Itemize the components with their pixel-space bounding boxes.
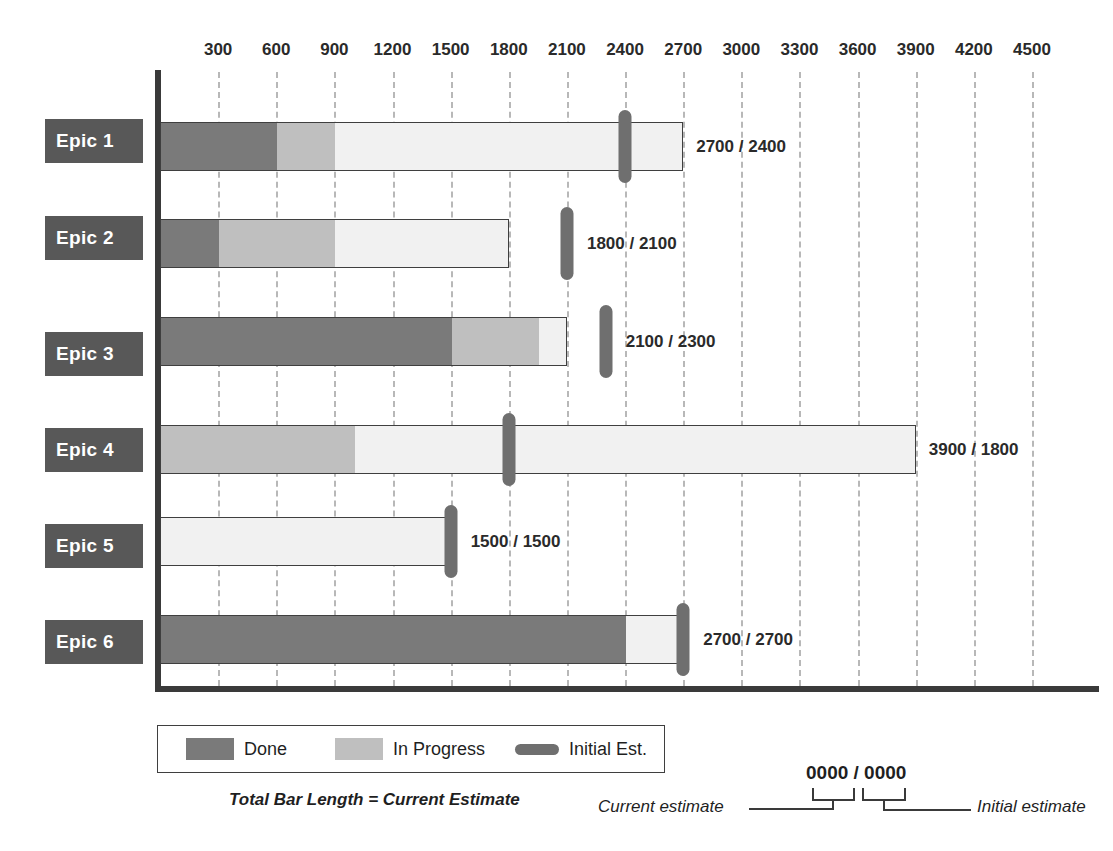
legend-swatch-done-icon — [186, 738, 234, 760]
epic-bar[interactable] — [160, 219, 509, 268]
x-tick-label: 600 — [262, 40, 290, 60]
x-tick-label: 2700 — [664, 40, 702, 60]
epic-label-chip[interactable]: Epic 2 — [45, 216, 143, 260]
legend-item-in-progress: In Progress — [335, 738, 485, 760]
epic-label-text: Epic 5 — [56, 535, 114, 557]
chart-legend: Done In Progress Initial Est. — [157, 725, 665, 773]
legend-swatch-in-progress-icon — [335, 738, 383, 760]
x-tick-label: 1800 — [490, 40, 528, 60]
bracket-initial-right — [904, 788, 906, 801]
bar-segment-done — [161, 616, 626, 663]
caption-initial-estimate: Initial estimate — [977, 797, 1086, 817]
epic-value-label: 2100 / 2300 — [626, 332, 716, 352]
bar-segment-done — [161, 123, 277, 170]
x-tick-label: 2100 — [548, 40, 586, 60]
epic-label-chip[interactable]: Epic 1 — [45, 119, 143, 163]
epic-bar[interactable] — [160, 517, 451, 566]
epic-bar[interactable] — [160, 122, 683, 171]
bracket-current-right — [853, 788, 855, 801]
epic-burnup-chart: 3006009001200150018002100240027003000330… — [0, 0, 1113, 851]
gridline — [741, 72, 743, 686]
sample-value-label: 0000 / 0000 — [806, 762, 906, 784]
initial-estimate-marker[interactable] — [560, 207, 573, 280]
legend-item-initial-est: Initial Est. — [515, 739, 647, 760]
bar-segment-in-progress — [219, 220, 335, 267]
gridline — [858, 72, 860, 686]
bar-segment-in-progress — [277, 123, 335, 170]
x-tick-label: 4200 — [955, 40, 993, 60]
initial-estimate-marker[interactable] — [619, 110, 632, 183]
epic-label-text: Epic 6 — [56, 631, 114, 653]
epic-label-text: Epic 1 — [56, 130, 114, 152]
x-tick-label: 3000 — [722, 40, 760, 60]
leader-current-estimate — [749, 808, 834, 810]
gridline — [916, 72, 918, 686]
initial-estimate-marker[interactable] — [599, 305, 612, 378]
legend-item-done: Done — [186, 738, 287, 760]
gridline — [974, 72, 976, 686]
leader-initial-estimate — [883, 809, 971, 811]
legend-label-initial-est: Initial Est. — [569, 739, 647, 760]
epic-label-text: Epic 2 — [56, 227, 114, 249]
epic-bar[interactable] — [160, 425, 916, 474]
legend-swatch-initial-est-icon — [515, 744, 559, 755]
footnote-total-bar-length: Total Bar Length = Current Estimate — [229, 790, 520, 810]
epic-label-text: Epic 3 — [56, 343, 114, 365]
gridline — [799, 72, 801, 686]
x-tick-label: 4500 — [1013, 40, 1051, 60]
initial-estimate-marker[interactable] — [502, 413, 515, 486]
epic-value-label: 3900 / 1800 — [929, 440, 1019, 460]
legend-label-in-progress: In Progress — [393, 739, 485, 760]
epic-label-chip[interactable]: Epic 5 — [45, 524, 143, 568]
x-tick-label: 1200 — [374, 40, 412, 60]
bar-segment-in-progress — [452, 318, 539, 365]
x-tick-label: 3900 — [897, 40, 935, 60]
epic-label-chip[interactable]: Epic 4 — [45, 428, 143, 472]
epic-value-label: 2700 / 2400 — [696, 137, 786, 157]
epic-label-chip[interactable]: Epic 6 — [45, 620, 143, 664]
bar-segment-in-progress — [161, 426, 355, 473]
legend-label-done: Done — [244, 739, 287, 760]
gridline — [1032, 72, 1034, 686]
x-tick-label: 3300 — [781, 40, 819, 60]
initial-estimate-marker[interactable] — [444, 505, 457, 578]
x-tick-label: 300 — [204, 40, 232, 60]
epic-value-label: 2700 / 2700 — [703, 630, 793, 650]
x-tick-label: 900 — [320, 40, 348, 60]
x-tick-label: 3600 — [839, 40, 877, 60]
epic-label-text: Epic 4 — [56, 439, 114, 461]
x-tick-label: 1500 — [432, 40, 470, 60]
epic-bar[interactable] — [160, 317, 567, 366]
epic-value-label: 1500 / 1500 — [471, 532, 561, 552]
bar-segment-done — [161, 220, 219, 267]
x-axis-line — [155, 686, 1099, 692]
bar-segment-done — [161, 318, 452, 365]
epic-bar[interactable] — [160, 615, 683, 664]
initial-estimate-marker[interactable] — [677, 603, 690, 676]
x-tick-label: 2400 — [606, 40, 644, 60]
epic-value-label: 1800 / 2100 — [587, 234, 677, 254]
caption-current-estimate: Current estimate — [598, 797, 724, 817]
epic-label-chip[interactable]: Epic 3 — [45, 332, 143, 376]
gridline — [683, 72, 685, 686]
